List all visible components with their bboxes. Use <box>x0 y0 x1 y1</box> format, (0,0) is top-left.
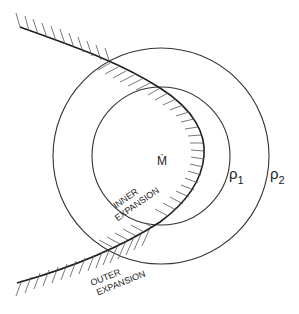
inner-hatching-upper <box>98 63 158 94</box>
outer-hatching-lower <box>16 228 150 296</box>
boundary-curve <box>17 27 204 283</box>
inner-circle-label: ρ1 <box>229 165 244 186</box>
inner-expansion-label: INNER EXPANSION <box>106 176 161 223</box>
outer-circle-label: ρ2 <box>270 165 285 186</box>
center-label: Ṁ <box>157 154 167 168</box>
inner-hatching-lower <box>91 215 160 250</box>
expansion-diagram: Ṁ ρ1 ρ2 INNER EXPANSION OUTER EXPANSION <box>0 0 299 314</box>
inner-hatching <box>148 88 204 216</box>
